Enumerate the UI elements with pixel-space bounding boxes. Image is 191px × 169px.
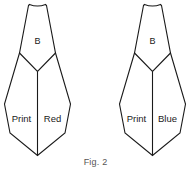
pattern-piece-left: B Print Red: [5, 5, 71, 156]
pattern-piece-right: B Print Blue: [120, 5, 186, 156]
figure-caption: Fig. 2: [0, 157, 191, 168]
right-piece-right-panel-label: Blue: [158, 113, 177, 124]
left-piece-left-panel-label: Print: [12, 113, 32, 124]
figure-diagram: B Print Red B Print Blue: [0, 0, 191, 169]
left-piece-right-panel-label: Red: [44, 113, 61, 124]
left-piece-neck-label: B: [34, 36, 40, 46]
right-piece-left-panel-label: Print: [127, 113, 147, 124]
right-piece-neck-label: B: [149, 36, 155, 46]
